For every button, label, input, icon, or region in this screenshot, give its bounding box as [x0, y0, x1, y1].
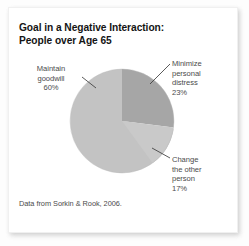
pie-label-change-line-1: Change [172, 155, 234, 165]
pie-label-change-the-other-person: Change the other person 17% [172, 155, 234, 193]
pie-label-maintain-goodwill: Maintain goodwill 60% [20, 64, 82, 93]
figure-root: Goal in a Negative Interaction: People o… [0, 0, 249, 246]
pie-label-change-line-3: person [172, 174, 234, 184]
pie-label-minimize-line-3: distress [172, 78, 234, 88]
pie-label-maintain-line-1: Maintain [20, 64, 82, 74]
page-title: Goal in a Negative Interaction: People o… [19, 21, 199, 47]
pie-label-change-value: 17% [172, 184, 234, 194]
title-line-1: Goal in a Negative Interaction: [19, 21, 199, 34]
source-note: Data from Sorkin & Rook, 2006. [19, 199, 122, 208]
pie-label-maintain-line-2: goodwill [20, 74, 82, 84]
pie-label-minimize-line-2: personal [172, 69, 234, 79]
pie-label-change-line-2: the other [172, 165, 234, 175]
pie-label-maintain-value: 60% [20, 83, 82, 93]
pie-label-minimize-value: 23% [172, 88, 234, 98]
pie-label-minimize-line-1: Minimize [172, 59, 234, 69]
title-line-2: People over Age 65 [19, 34, 199, 47]
pie-label-minimize-personal-distress: Minimize personal distress 23% [172, 59, 234, 97]
